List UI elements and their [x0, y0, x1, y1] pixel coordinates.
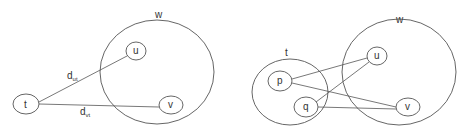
set-t-circle [252, 59, 328, 125]
node-t-label: t [24, 99, 27, 110]
left-diagram: w dut dvt u v t [13, 9, 214, 124]
set-w-circle [342, 19, 456, 125]
node-u-label: u [133, 45, 139, 56]
node-u-label: u [374, 50, 380, 61]
right-diagram: w t u v p q [252, 14, 456, 125]
edge-label-d-ut: dut [67, 70, 78, 82]
diagram-canvas: w dut dvt u v t w t u v p q [0, 0, 461, 138]
set-w-label: w [395, 14, 404, 25]
set-w-label: w [154, 9, 163, 20]
edge-t-u [39, 56, 127, 102]
edge-label-d-vt: dvt [80, 106, 91, 118]
node-q-label: q [303, 101, 309, 112]
set-w-circle [100, 20, 214, 124]
edge-t-v [39, 104, 159, 107]
node-v-label: v [168, 99, 173, 110]
node-v-label: v [405, 101, 410, 112]
set-t-label: t [285, 47, 288, 58]
node-p-label: p [277, 75, 283, 86]
